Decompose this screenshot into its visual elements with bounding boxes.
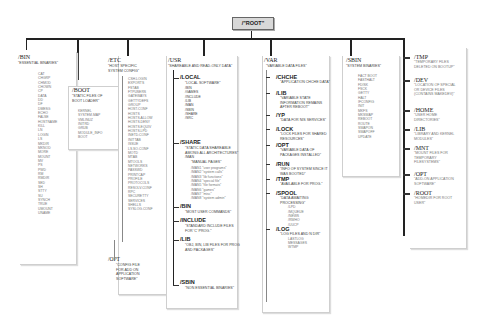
usr-tree-line (173, 70, 174, 230)
etc-item[interactable]: PROTOCOLS (128, 181, 153, 185)
right-bus (403, 38, 405, 236)
usr-sbin-desc: "NON ESSENTIAL BINARIES" (185, 286, 234, 291)
desc-line: "OBJ, BIN, LIB FILES FOR PROG (185, 243, 240, 248)
etc-list: CSH.LOGINEXPORTSFSTABFTPUSERSGATEWAYSGET… (128, 77, 153, 212)
right-child-tick (403, 80, 410, 82)
bin-list: CATCHGRPCHMODCHOWNCPDATADDDFDMESGECHOFAL… (38, 72, 57, 215)
var-child-desc: "APPLICATION CHCHE DATA" (280, 80, 330, 85)
bin-dir[interactable]: /BIN (18, 54, 30, 60)
var-child-tick (266, 179, 270, 180)
usr-local-item[interactable]: /SRC (185, 116, 201, 120)
usr-include-tick (173, 221, 179, 222)
desc-line: "STATIC DATA SHAREABLE (185, 146, 238, 151)
right-child-tick (403, 193, 410, 195)
boot-dir[interactable]: /BOOT (72, 87, 90, 93)
etc-item[interactable]: SYSLOG.CONF (128, 207, 153, 211)
var-child-desc: "INFO OF SYSTEM SINCE ITWAS BOOTED" (280, 167, 328, 176)
var-child-desc: "VARIABLE STATEINFORMATION REMAINSAFTER … (280, 96, 322, 110)
etc-dir[interactable]: /ETC (108, 57, 121, 63)
var-dir[interactable]: /VAR (264, 57, 278, 63)
right-child-tick (403, 57, 410, 59)
usr-desc: "SHAREABLE AND READ-ONLY DATA" (168, 64, 232, 69)
right-child-tick (403, 110, 410, 112)
var-child-tick (266, 145, 270, 146)
usr-sbin-dir[interactable]: /SBIN (180, 279, 195, 285)
right-child-desc: "TEMPORARY FILESDELETED ON BOOTUP" (414, 60, 454, 69)
bin-item[interactable]: UNAME (38, 211, 57, 215)
boot-drop (77, 38, 79, 80)
usr-include-dir[interactable]: /INCLUDE (180, 217, 206, 223)
sbin-drop (350, 38, 352, 56)
desc-line: BOOT LOADER" (72, 99, 103, 104)
usr-lib-tick (173, 240, 179, 241)
right-child-tick (403, 129, 410, 131)
right-child-desc: "ADD-ON APPLICATIONSOFTWARE" (414, 177, 454, 186)
etc-item[interactable]: SECURETTY (128, 194, 153, 198)
right-child-desc: "LIBRARY AND KERNELMODULES" (414, 132, 454, 141)
etc-opt-connector (114, 240, 115, 260)
var-child-tick (266, 164, 270, 165)
usr-bin-tick (173, 207, 179, 208)
var-tree-line (266, 70, 267, 302)
sbin-list: FACT BOOTFASTHALTFDISKFSCKGETTYHALTIFCON… (358, 74, 377, 139)
usr-local-tick (173, 78, 179, 79)
var-desc: "VARIABLE DATA FILES" (266, 64, 307, 69)
desc-line: "STANDARD INCLUDE FILES (185, 224, 234, 229)
usr-lib-dir[interactable]: /LIB (180, 236, 190, 242)
usr-share-dir[interactable]: /SHARE (180, 139, 201, 145)
desc-line: FOR 'C' PROG." (185, 229, 234, 234)
var-child-desc: "DATA FOR NIS SERVICES" (280, 118, 326, 123)
usr-man-list: /MAN1 "user programs"/MAN2 "system calls… (191, 166, 227, 201)
bin-desc: "ESSENTIAL BINARIES" (18, 61, 58, 66)
sbin-desc: "SYSTEM BINARIES" (346, 64, 381, 69)
etc-desc: "HOST SPECIFICSYSTEM CONFIG" (108, 64, 139, 73)
right-child-desc: "HOMEDIR FOR ROOTUSER" (414, 196, 452, 205)
var-item[interactable]: WTMP (288, 245, 307, 249)
right-child-desc: "MOUNT FILES FORTEMPORARYFILESYSTEMS" (414, 151, 448, 165)
usr-drop (203, 38, 205, 56)
usr-local-desc: "LOCAL SOFTWARE" (185, 81, 220, 86)
var-child-desc: "LOCK FILES FOR SHAREDRESOURCES" (280, 132, 327, 141)
right-child-desc: "USER HOMEDIRECTORIES" (414, 113, 440, 122)
sbin-item[interactable]: UPDATE (358, 135, 377, 139)
usr-dir[interactable]: /USR (168, 57, 181, 63)
top-bus (26, 38, 404, 40)
usr-local-dir[interactable]: /LOCAL (180, 74, 200, 80)
var-child-desc: "VARIABLE DATA OFPACKAGES INSTALLED" (280, 148, 321, 157)
boot-desc: "STATIC FILES OFBOOT LOADER" (72, 94, 103, 103)
sbin-dir[interactable]: /SBIN (346, 57, 361, 63)
var-child-list: /LPD/MQUEUE/NEWS/RWHO/UUCP (288, 205, 304, 227)
right-child-tick (403, 174, 410, 176)
var-child-tick (266, 129, 270, 130)
var-child-tick (266, 229, 270, 230)
desc-line: "STATIC FILES OF (72, 94, 103, 99)
usr-local-list: /BIN/GAMES/INCLUDE/LIB/MAN/SBIN/SHARE/SR… (185, 86, 201, 121)
root-node[interactable]: /"ROOT" (232, 17, 274, 30)
usr-share-man-desc: "MANUAL PAGES" (191, 160, 222, 165)
right-child-tick (403, 148, 410, 150)
usr-tree-line-lower (173, 230, 174, 285)
usr-include-desc: "STANDARD INCLUDE FILESFOR 'C' PROG." (185, 224, 234, 233)
desc-line: SOFTWARE" (116, 277, 140, 282)
var-child-tick (266, 77, 270, 78)
desc-line: SYSTEM CONFIG" (108, 69, 139, 74)
var-drop (270, 38, 272, 56)
usr-share-man-dir[interactable]: /MAN (185, 155, 194, 160)
var-child-desc: "DATA AWAITINGPROCESSING" (280, 196, 308, 205)
usr-sbin-tick (173, 285, 179, 286)
desc-line: AND PACKAGES" (185, 248, 240, 253)
usr-bin-dir[interactable]: /BIN (180, 203, 191, 209)
bin-drop (26, 38, 27, 50)
usr-lib-desc: "OBJ, BIN, LIB FILES FOR PROGAND PACKAGE… (185, 243, 240, 252)
usr-share-tick (173, 143, 179, 144)
boot-list: KERNELSYSTEM.MAPVMLINUZINITRDGRUBMODULE_… (78, 109, 103, 139)
desc-line: "CONFIG FILE (116, 263, 140, 268)
etc-list-rule (122, 76, 123, 242)
right-child-desc: "LOCATION OF SPECIALOR DEVICE FILES(CONT… (414, 83, 456, 97)
var-child-tick (266, 193, 270, 194)
desc-line: "HOST SPECIFIC (108, 64, 139, 69)
var-child-desc: "AVAILABLE FOR PROG." (280, 182, 323, 187)
boot-item[interactable]: BOOT (78, 135, 103, 139)
man-section-item[interactable]: /MAN8 "system admin" (191, 196, 227, 200)
var-item[interactable]: /UUCP (288, 223, 304, 227)
